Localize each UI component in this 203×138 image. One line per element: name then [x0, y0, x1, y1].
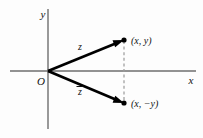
z-vector-label: z [77, 41, 82, 52]
point-z-conjugate-label: (x, −y) [131, 98, 159, 110]
y-axis-label: y [40, 8, 46, 20]
point-z-dot [121, 37, 126, 42]
origin-label: O [37, 75, 45, 87]
point-z-conjugate-dot [121, 100, 126, 105]
complex-plane-diagram: y x O z z (x, y) (x, −y) [0, 0, 203, 138]
z-vector-shaft [48, 43, 118, 72]
x-axis-label: x [188, 74, 194, 86]
figure-container: y x O z z (x, y) (x, −y) [0, 0, 203, 138]
point-z-label: (x, y) [131, 35, 152, 47]
z-conjugate-vector-label: z [77, 86, 82, 97]
z-conjugate-vector-shaft [48, 71, 118, 101]
